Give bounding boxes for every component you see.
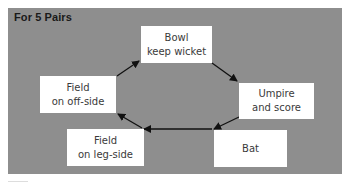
node-bowl-line1: Bowl — [165, 31, 189, 45]
node-umpire-line2: and score — [252, 101, 301, 115]
node-bat: Bat — [214, 130, 287, 167]
node-bowl-line2: keep wicket — [147, 45, 206, 59]
node-leg-side-line2: on leg-side — [78, 148, 133, 162]
node-bowl: Bowl keep wicket — [141, 26, 212, 63]
node-umpire: Umpire and score — [239, 83, 314, 119]
diagram-canvas: For 5 Pairs Bowl keep wicket Umpire and … — [0, 0, 348, 188]
diagram-title: For 5 Pairs — [14, 11, 72, 23]
node-off-side-line1: Field — [66, 81, 89, 95]
node-off-side: Field on off-side — [40, 76, 116, 113]
node-leg-side: Field on leg-side — [67, 129, 144, 166]
node-umpire-line1: Umpire — [258, 87, 294, 101]
divider — [8, 181, 28, 182]
node-off-side-line2: on off-side — [52, 95, 105, 109]
node-bat-line1: Bat — [242, 142, 259, 156]
node-leg-side-line1: Field — [94, 134, 117, 148]
